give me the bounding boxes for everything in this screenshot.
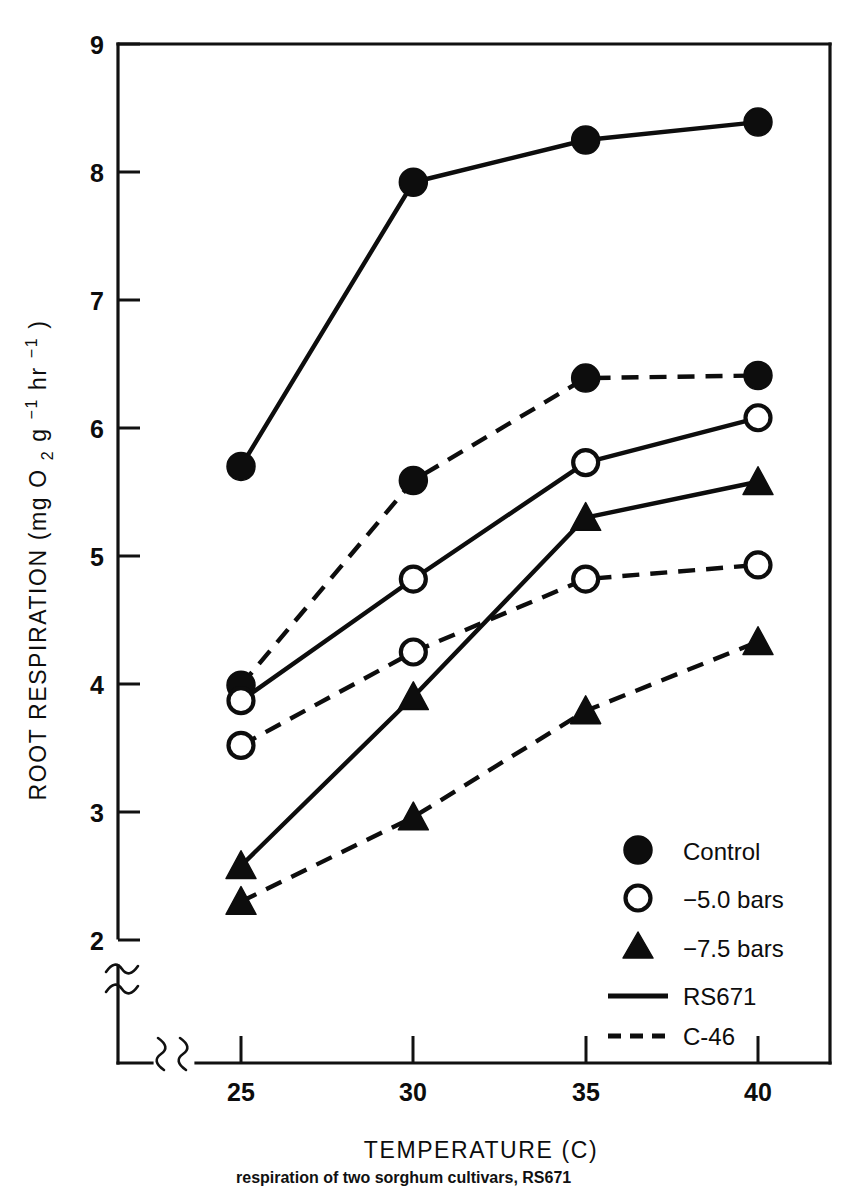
y-axis-title-sup1b: −1 (23, 337, 40, 358)
y-tick-label-5: 5 (90, 543, 104, 571)
filled-circle-icon (572, 364, 600, 392)
y-axis-break-icon (106, 965, 138, 994)
series-5 (226, 467, 773, 879)
series-line (241, 482, 758, 866)
filled-circle-icon (227, 452, 255, 480)
y-axis-ticks (118, 44, 140, 940)
y-tick-label-6: 6 (90, 415, 104, 443)
filled-triangle-icon (571, 696, 601, 724)
x-tick-label-35: 35 (572, 1078, 600, 1106)
open-circle-icon (746, 405, 771, 430)
y-tick-label-3: 3 (90, 799, 104, 827)
open-circle-icon (746, 552, 771, 577)
series-1 (227, 108, 772, 480)
filled-circle-icon (744, 108, 772, 136)
y-axis-title-unit-open: (mg O (25, 468, 51, 540)
series-4 (229, 552, 771, 757)
series-line (241, 642, 758, 902)
open-circle-icon (401, 640, 426, 665)
y-axis-title-sub2: 2 (39, 450, 56, 461)
y-tick-label-8: 8 (90, 159, 104, 187)
series-line (241, 376, 758, 686)
filled-triangle-icon (743, 467, 773, 495)
x-axis-break-icon (157, 1038, 188, 1070)
x-axis-title: TEMPERATURE (C) (364, 1137, 598, 1163)
data-series-layer (226, 108, 773, 914)
legend-label-rs671: RS671 (683, 983, 756, 1010)
y-axis-title-main: ROOT RESPIRATION (25, 548, 51, 800)
legend-label-minus-7-5-bars: −7.5 bars (683, 935, 784, 962)
filled-triangle-icon (398, 802, 428, 830)
x-tick-label-40: 40 (744, 1078, 772, 1106)
series-2 (227, 362, 772, 700)
y-tick-label-9: 9 (90, 31, 104, 59)
y-axis-title: ROOT RESPIRATION (mg O 2 g −1 hr −1 ) (16, 320, 58, 801)
series-3 (229, 405, 771, 713)
x-axis-ticks (241, 1036, 758, 1063)
filled-circle-icon (744, 362, 772, 390)
figure-caption: respiration of two sorghum cultivars, RS… (236, 1169, 856, 1187)
open-circle-icon (401, 567, 426, 592)
filled-triangle-icon (623, 932, 653, 958)
legend-item-minus-7-5-bars[interactable]: −7.5 bars (623, 932, 784, 962)
filled-circle-icon (399, 168, 427, 196)
legend-label-minus-5-bars: −5.0 bars (683, 886, 784, 913)
filled-triangle-icon (743, 627, 773, 655)
y-axis-title-hr: hr (25, 366, 51, 390)
legend: Control −5.0 bars −7.5 bars RS671 C-46 (608, 836, 784, 1050)
chart-canvas: 9 8 7 6 5 4 3 2 25 30 35 40 TE (0, 0, 863, 1187)
x-tick-label-30: 30 (399, 1078, 427, 1106)
legend-item-c46[interactable]: C-46 (608, 1023, 735, 1050)
series-line (241, 122, 758, 466)
filled-circle-icon (572, 126, 600, 154)
svg-text:ROOT RESPIRATION: ROOT RESPIRATION (mg O 2 g −1 hr −1 ) (16, 320, 58, 801)
y-axis-title-g: g (25, 427, 51, 441)
legend-item-rs671[interactable]: RS671 (608, 983, 756, 1010)
open-circle-icon (229, 733, 254, 758)
legend-item-minus-5-bars[interactable]: −5.0 bars (626, 886, 784, 914)
open-circle-icon (229, 688, 254, 713)
legend-label-c46: C-46 (683, 1023, 735, 1050)
open-circle-icon (573, 567, 598, 592)
y-tick-label-7: 7 (90, 287, 104, 315)
filled-triangle-icon (226, 887, 256, 915)
legend-label-control: Control (683, 838, 760, 865)
legend-item-control[interactable]: Control (624, 836, 760, 865)
y-axis-title-sup1a: −1 (23, 398, 40, 419)
x-tick-label-25: 25 (227, 1078, 255, 1106)
y-tick-label-2: 2 (90, 927, 104, 955)
y-tick-label-4: 4 (90, 671, 104, 699)
open-circle-icon (626, 886, 651, 911)
open-circle-icon (573, 450, 598, 475)
series-line (241, 418, 758, 701)
y-axis-title-close: ) (25, 320, 51, 329)
figure-root-respiration: 9 8 7 6 5 4 3 2 25 30 35 40 TE (0, 0, 863, 1187)
filled-circle-icon (399, 466, 427, 494)
series-6 (226, 627, 773, 915)
filled-circle-icon (624, 836, 652, 864)
